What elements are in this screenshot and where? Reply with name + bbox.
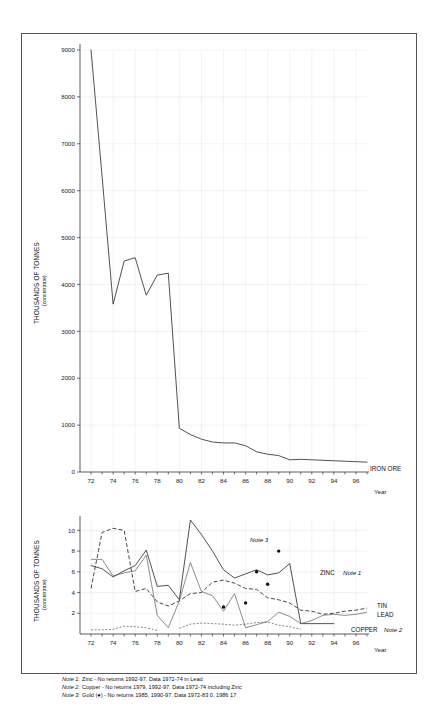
note-label: Note 3: bbox=[62, 692, 80, 698]
copper-note-ref: Note 2 bbox=[384, 626, 403, 633]
y-tick-label: 2 bbox=[72, 609, 76, 616]
tin-series-label: TIN bbox=[377, 602, 388, 609]
y-tick-label: 4 bbox=[72, 589, 76, 596]
lead-series-label: LEAD bbox=[377, 611, 394, 618]
x-tick-label: 90 bbox=[286, 477, 293, 484]
iron-ore-series-label: IRON ORE bbox=[370, 465, 401, 472]
y-tick-label: 9000 bbox=[61, 46, 75, 53]
copper-series-label: COPPER bbox=[351, 626, 378, 633]
x-tick-label: 80 bbox=[176, 477, 183, 484]
x-tick-label: 72 bbox=[88, 639, 95, 646]
y-tick-label: 5000 bbox=[61, 234, 75, 241]
x-tick-label: 90 bbox=[286, 639, 293, 646]
y-tick-label: 6 bbox=[72, 568, 76, 575]
upper-chart-series bbox=[91, 50, 367, 462]
y-tick-label: 0 bbox=[72, 468, 76, 475]
y-tick-label: 8 bbox=[72, 547, 76, 554]
x-tick-label: 94 bbox=[330, 639, 337, 646]
note-text: Copper - No returns 1979, 1992-97. Data … bbox=[82, 684, 242, 690]
y-tick-label: 4000 bbox=[61, 281, 75, 288]
note-label: Note 1: bbox=[62, 676, 80, 682]
y-tick-label: 8000 bbox=[61, 93, 75, 100]
lower-chart-axes bbox=[77, 516, 369, 637]
x-tick-label: 72 bbox=[88, 477, 95, 484]
x-tick-label: 78 bbox=[154, 639, 161, 646]
note-text: Zinc - No returns 1992-97. Data 1972-74 … bbox=[82, 676, 203, 682]
gold-note-ref: Note 3 bbox=[250, 536, 269, 543]
upper-chart-gridlines bbox=[80, 50, 367, 472]
note-label: Note 2: bbox=[62, 684, 80, 690]
series-line-copper bbox=[91, 622, 301, 630]
series-line-iron-ore bbox=[91, 50, 367, 462]
gold-data-point bbox=[266, 583, 269, 586]
y-tick-label: 3000 bbox=[61, 328, 75, 335]
note-row: Note 1:Zinc - No returns 1992-97. Data 1… bbox=[62, 676, 203, 682]
x-tick-label: 86 bbox=[242, 477, 249, 484]
upper-chart-x-axis-title: Year bbox=[374, 488, 387, 495]
lower-chart-x-axis-title: Year bbox=[374, 646, 387, 653]
x-tick-label: 88 bbox=[264, 639, 271, 646]
x-tick-label: 80 bbox=[176, 639, 183, 646]
note-text: Gold (●) - No returns 1985, 1990-97. Dat… bbox=[82, 692, 236, 698]
y-tick-label: 10 bbox=[68, 527, 75, 534]
x-tick-label: 92 bbox=[308, 477, 315, 484]
series-line-lead bbox=[91, 555, 367, 628]
x-tick-label: 82 bbox=[198, 477, 205, 484]
x-tick-label: 84 bbox=[220, 477, 227, 484]
upper-chart-axes bbox=[77, 44, 369, 475]
upper-chart-y-axis-subtitle: (concentrate) bbox=[41, 275, 47, 306]
minerals-chart: 246810 72747678808284868890929496 THOUSA… bbox=[22, 504, 416, 672]
y-tick-label: 1000 bbox=[61, 421, 75, 428]
x-tick-label: 74 bbox=[110, 477, 117, 484]
zinc-series-label: ZINC bbox=[320, 569, 335, 576]
lower-chart-y-axis-title: THOUSANDS OF TONNES bbox=[33, 540, 40, 622]
upper-chart-x-tick-labels: 72747678808284868890929496 bbox=[88, 477, 360, 484]
chart-notes: Note 1:Zinc - No returns 1992-97. Data 1… bbox=[22, 672, 416, 709]
lower-chart-x-tick-labels: 72747678808284868890929496 bbox=[88, 639, 360, 646]
x-tick-label: 84 bbox=[220, 639, 227, 646]
y-tick-label: 2000 bbox=[61, 374, 75, 381]
x-tick-label: 92 bbox=[308, 639, 315, 646]
note-row: Note 3:Gold (●) - No returns 1985, 1990-… bbox=[62, 692, 236, 698]
x-tick-label: 94 bbox=[330, 477, 337, 484]
iron-ore-chart: 0100020003000400050006000700080009000 72… bbox=[22, 34, 416, 504]
gold-data-point bbox=[244, 601, 247, 604]
note-row: Note 2:Copper - No returns 1979, 1992-97… bbox=[62, 684, 242, 690]
x-tick-label: 86 bbox=[242, 639, 249, 646]
gold-data-point bbox=[277, 549, 280, 552]
figure-frame: 0100020003000400050006000700080009000 72… bbox=[21, 33, 417, 674]
x-tick-label: 96 bbox=[353, 639, 360, 646]
x-tick-label: 82 bbox=[198, 639, 205, 646]
figure-page: 0100020003000400050006000700080009000 72… bbox=[0, 0, 436, 709]
y-tick-label: 6000 bbox=[61, 187, 75, 194]
x-tick-label: 74 bbox=[110, 639, 117, 646]
x-tick-label: 78 bbox=[154, 477, 161, 484]
y-tick-label: 7000 bbox=[61, 140, 75, 147]
upper-chart-y-axis-title: THOUSANDS OF TONNES bbox=[33, 242, 40, 324]
x-tick-label: 76 bbox=[132, 477, 139, 484]
x-tick-label: 88 bbox=[264, 477, 271, 484]
lower-chart-y-axis-subtitle: (concentrate) bbox=[41, 579, 47, 610]
upper-chart-y-tick-labels: 0100020003000400050006000700080009000 bbox=[61, 46, 75, 475]
lower-chart-gridlines bbox=[80, 520, 367, 634]
gold-data-point bbox=[222, 605, 225, 608]
x-tick-label: 96 bbox=[353, 477, 360, 484]
zinc-note-ref: Note 1 bbox=[343, 569, 361, 576]
lower-chart-y-tick-labels: 246810 bbox=[68, 527, 75, 617]
gold-data-point bbox=[255, 570, 258, 573]
x-tick-label: 76 bbox=[132, 639, 139, 646]
